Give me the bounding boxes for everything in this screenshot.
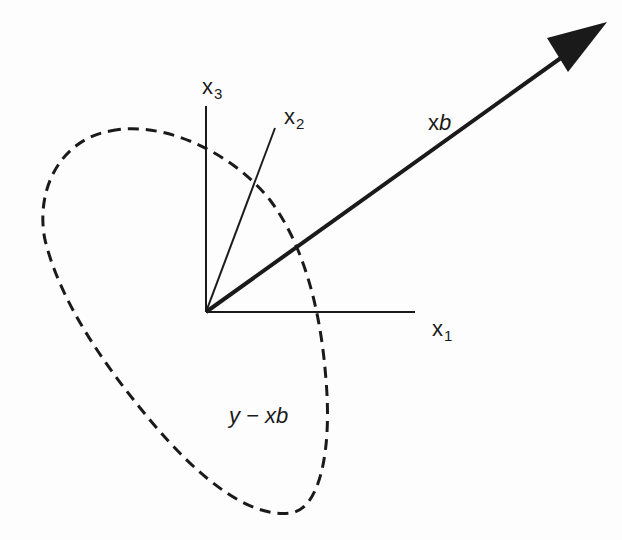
residual-dashed-ellipse [43, 129, 328, 514]
diagram-canvas [0, 0, 622, 540]
xb-arrowhead-icon [547, 22, 607, 72]
residual-label: y − xb [229, 405, 288, 427]
x1-axis-label: x1 [432, 318, 452, 343]
x3-axis-label: x3 [202, 76, 222, 101]
xb-vector-label: xb [428, 112, 451, 134]
projection-diagram: x3 x2 x1 xb y − xb [0, 0, 622, 540]
x2-axis-label: x2 [284, 106, 304, 131]
xb-vector-line [206, 50, 572, 312]
